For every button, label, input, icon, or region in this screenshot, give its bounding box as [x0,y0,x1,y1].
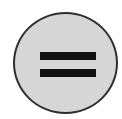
equals-icon-bottom-bar [40,69,96,77]
equals-button[interactable] [13,12,118,114]
equals-icon-top-bar [40,52,96,60]
